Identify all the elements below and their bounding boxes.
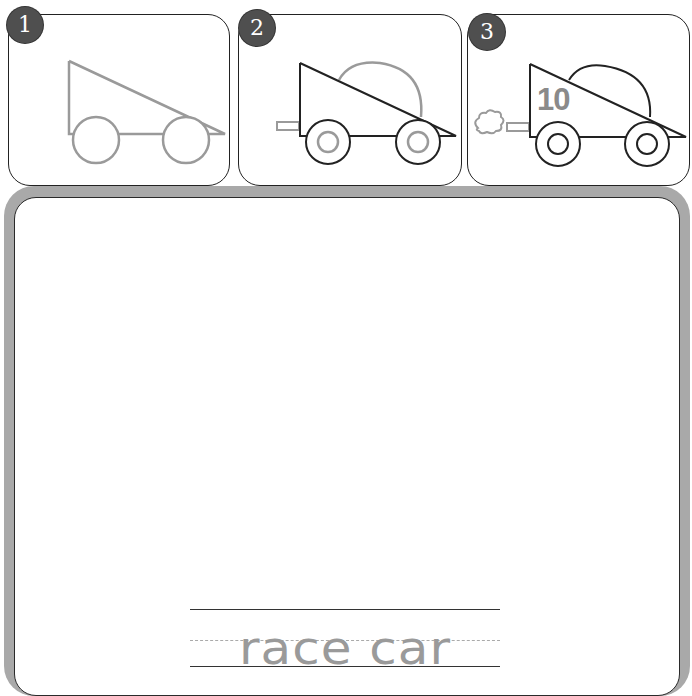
car-step3-drawing <box>0 0 692 200</box>
step-badge-1: 1 <box>7 7 43 43</box>
step-badge-3: 3 <box>469 14 505 50</box>
drawing-area-frame <box>4 186 690 696</box>
writing-line-base <box>190 666 500 667</box>
step-badge-2: 2 <box>239 10 275 46</box>
trace-word: race car <box>190 625 500 671</box>
writing-line-top <box>190 609 500 610</box>
exhaust-puff-icon <box>475 110 503 133</box>
car-number-label: 10 <box>537 82 569 118</box>
